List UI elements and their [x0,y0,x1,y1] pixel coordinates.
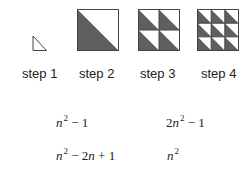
formula-rest: − 1 [68,115,88,130]
formula-option-2: 2n2 − 1 [166,116,205,129]
formula-rest: − 1 [185,115,205,130]
step-4-label: step 4 [201,67,236,80]
formula-option-4: n2 [167,149,179,162]
formula-exponent: 2 [180,113,185,123]
formula-exponent: 2 [64,146,69,156]
step-3-grid-figure [138,9,180,51]
formula-variable: n [56,115,63,130]
formula-option-3: n2 − 2n + 1 [56,149,115,162]
step-1-label: step 1 [22,67,57,80]
formula-variable: n [173,115,180,130]
formula-rest: − 2 [68,148,88,163]
formula-exponent: 2 [175,146,180,156]
step-2-label: step 2 [79,67,114,80]
formula-variable: n [56,148,63,163]
step-2-square-figure [77,9,119,51]
step-4-grid-figure [197,9,239,51]
formula-tail: + 1 [95,148,115,163]
formula-variable: n [167,148,174,163]
formula-option-1: n2 − 1 [56,116,88,129]
formula-exponent: 2 [64,113,69,123]
step-1-triangle-figure [32,35,48,52]
step-3-label: step 3 [140,67,175,80]
